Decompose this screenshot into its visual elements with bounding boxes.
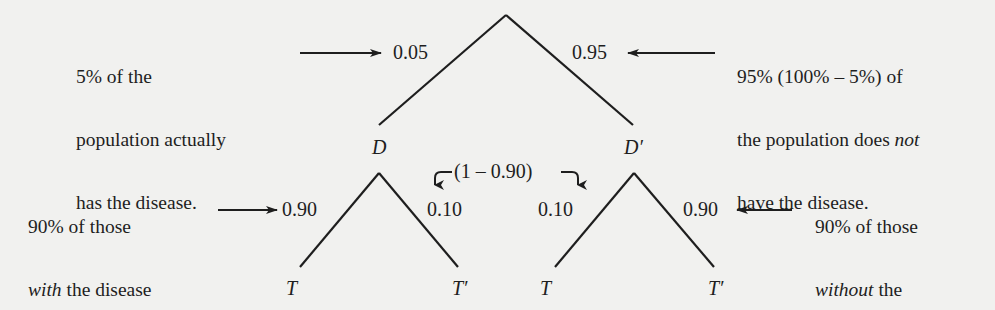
branch-D-to-T <box>300 173 379 267</box>
prob-D-to-T-prime: 0.10 <box>427 199 462 220</box>
hook-arrow-right-icon <box>561 172 578 185</box>
callout-line: 90% of those <box>28 216 151 237</box>
root-branches <box>379 15 633 125</box>
prob-root-to-D: 0.05 <box>393 42 428 63</box>
callout-line: with the disease <box>28 279 151 300</box>
callout-line: without the <box>815 279 918 300</box>
branch-root-to-D <box>379 15 506 125</box>
callout-line: 95% (100% – 5%) of <box>737 66 920 87</box>
prob-D-to-T: 0.90 <box>282 199 317 220</box>
callout-bottom-left: 90% of those with the disease test posit… <box>28 174 151 310</box>
callout-line: population actually <box>76 129 226 150</box>
node-T-under-D: T <box>286 278 297 299</box>
node-T-prime-under-D-prime: T′ <box>708 278 724 299</box>
probability-tree-diagram: 5% of the population actually has the di… <box>0 0 995 310</box>
prob-D-prime-to-T-prime: 0.90 <box>683 199 718 220</box>
callout-text: the <box>874 279 903 300</box>
callout-emphasis: not <box>895 129 920 150</box>
callout-line: 90% of those <box>815 216 918 237</box>
callout-line: 5% of the <box>76 66 226 87</box>
branch-D-prime-to-T-prime <box>634 173 714 267</box>
prob-D-prime-to-T: 0.10 <box>538 199 573 220</box>
branch-root-to-D-prime <box>506 15 633 125</box>
callout-text: the population does <box>737 129 895 150</box>
complement-note: (1 – 0.90) <box>454 161 532 182</box>
branch-D-to-T-prime <box>379 173 458 267</box>
callout-bottom-right: 90% of those without the disease test po… <box>815 174 918 310</box>
node-D: D <box>372 137 386 158</box>
callout-line: the population does not <box>737 129 920 150</box>
hook-arrow-left-icon <box>435 172 452 185</box>
prob-root-to-D-prime: 0.95 <box>572 42 607 63</box>
node-T-prime-under-D: T′ <box>452 278 468 299</box>
branch-D-prime-to-T <box>555 173 634 267</box>
node-T-under-D-prime: T <box>540 278 551 299</box>
D-branches <box>300 173 458 267</box>
node-D-prime: D′ <box>624 137 643 158</box>
callout-emphasis: without <box>815 279 874 300</box>
callout-text: the disease <box>62 279 152 300</box>
D-prime-branches <box>555 173 714 267</box>
callout-emphasis: with <box>28 279 62 300</box>
